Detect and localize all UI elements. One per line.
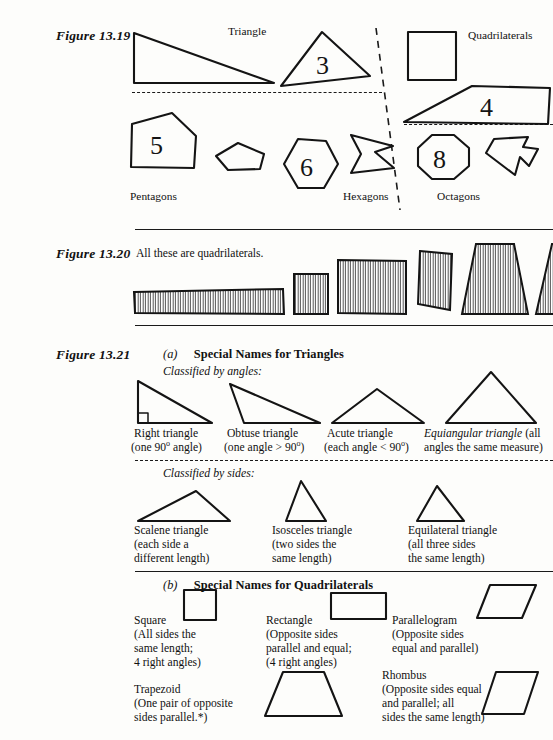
caption-rhombus-line2: and parallel; all (382, 697, 454, 711)
label-octagons: Octagons (437, 190, 480, 202)
caption-square: Square (134, 614, 166, 628)
shape-trapezoid (262, 668, 348, 722)
caption-isosceles-line1: (two sides the (272, 538, 336, 552)
caption-square-line1: (All sides the (134, 628, 196, 642)
caption-scalene-line2: different length) (134, 552, 209, 566)
caption-parallelogram-line2: equal and parallel) (392, 642, 478, 656)
caption-square-line3: 4 right angles) (134, 656, 201, 670)
shape-pentagon-small (212, 140, 268, 174)
caption-parallelogram-line1: (Opposite sides (392, 628, 464, 642)
rule-above-figure-13-21 (135, 325, 553, 326)
caption-rhombus-line3: sides the same length) (382, 711, 485, 725)
striped-quad-5 (462, 244, 528, 314)
caption-isosceles-triangle: Isosceles triangle (272, 524, 352, 538)
shape-equiangular-triangle (446, 372, 536, 423)
striped-quadrilateral-group (132, 256, 548, 318)
shape-octagon-numbered: 8 (414, 132, 474, 184)
shape-rhombus (478, 668, 544, 722)
shape-hexagon-numbered: 6 (280, 136, 342, 194)
caption-isosceles-line2: same length) (272, 552, 332, 566)
caption-square-line2: same length; (134, 642, 193, 656)
shape-number-8: 8 (433, 145, 446, 174)
rule-above-figure-13-20 (135, 229, 553, 230)
striped-quad-6 (536, 244, 553, 314)
shape-number-5: 5 (150, 131, 163, 160)
caption-obtuse-triangle-desc: (one angle > 90o) (224, 441, 304, 455)
caption-trapezoid: Trapezoid (134, 683, 181, 697)
caption-obtuse-triangle: Obtuse triangle (227, 427, 298, 441)
caption-rectangle: Rectangle (266, 614, 312, 628)
label-quadrilaterals: Quadrilaterals (468, 29, 533, 41)
shape-square-quad (404, 28, 464, 86)
part-b-marker: (b) (163, 578, 177, 592)
rule-above-part-b (135, 571, 553, 572)
striped-quad-2 (294, 274, 328, 314)
caption-equilateral-line2: the same length) (408, 552, 485, 566)
shape-pentagon-numbered: 5 (126, 110, 202, 172)
triangles-by-sides-shapes (134, 478, 546, 526)
striped-quad-3 (338, 260, 406, 314)
caption-equilateral-triangle: Equilateral triangle (408, 524, 497, 538)
figure-label-13-20: Figure 13.20 (56, 246, 130, 262)
caption-rhombus: Rhombus (382, 669, 426, 683)
triangles-by-angles-shapes (134, 378, 546, 426)
shape-triangle-large (130, 30, 280, 88)
shape-equilateral-triangle (417, 486, 464, 521)
shape-parallelogram (474, 582, 544, 626)
caption-acute-triangle-desc: (each angle < 90o) (324, 441, 409, 455)
label-hexagons: Hexagons (343, 190, 389, 202)
divider-horizontal-left-dashed (132, 92, 382, 93)
caption-equiangular-triangle-desc: angles the same measure) (424, 441, 543, 455)
caption-right-triangle-desc: (one 90o angle) (131, 441, 202, 455)
shape-quadrilateral-numbered: 4 (400, 82, 552, 130)
caption-equilateral-line1: (all three sides (408, 538, 476, 552)
shape-triangle-numbered: 3 (278, 28, 376, 90)
shape-number-3: 3 (316, 51, 329, 80)
shape-number-6: 6 (300, 153, 313, 182)
part-a-header: (a) Special Names for Triangles (163, 347, 344, 362)
caption-trapezoid-line2: sides parallel.*) (134, 711, 207, 725)
caption-scalene-triangle: Scalene triangle (134, 524, 208, 538)
shape-octagon-concave (482, 133, 542, 179)
subhead-classified-by-angles: Classified by angles: (163, 364, 262, 379)
figure-label-13-21: Figure 13.21 (56, 347, 130, 363)
caption-rectangle-line1: (Opposite sides (266, 628, 338, 642)
shape-number-4: 4 (480, 93, 493, 122)
shape-hexagon-concave (345, 132, 397, 176)
part-a-marker: (a) (163, 347, 177, 361)
shape-square (180, 586, 240, 626)
caption-rhombus-line1: (Opposite sides equal (382, 683, 482, 697)
shape-scalene-triangle (138, 491, 230, 521)
caption-rectangle-line2: parallel and equal; (266, 642, 352, 656)
textbook-page: Figure 13.19 Triangle Quadrilaterals 3 4… (0, 0, 553, 740)
striped-quad-4 (418, 251, 452, 310)
caption-trapezoid-line1: (One pair of opposite (134, 697, 233, 711)
shape-acute-triangle (332, 389, 424, 423)
striped-quad-1 (134, 289, 284, 314)
label-pentagons: Pentagons (130, 190, 177, 202)
caption-equiangular-triangle: Equiangular triangle (all (424, 427, 541, 441)
caption-acute-triangle: Acute triangle (327, 427, 393, 441)
caption-scalene-line1: (each side a (134, 538, 189, 552)
rule-between-classifications-dashed (135, 460, 553, 461)
part-a-title: Special Names for Triangles (194, 347, 344, 361)
shape-rectangle (328, 589, 394, 625)
shape-right-triangle (138, 381, 212, 423)
shape-isosceles-triangle (286, 481, 326, 521)
caption-parallelogram: Parallelogram (392, 614, 457, 628)
shape-obtuse-triangle (230, 384, 320, 423)
